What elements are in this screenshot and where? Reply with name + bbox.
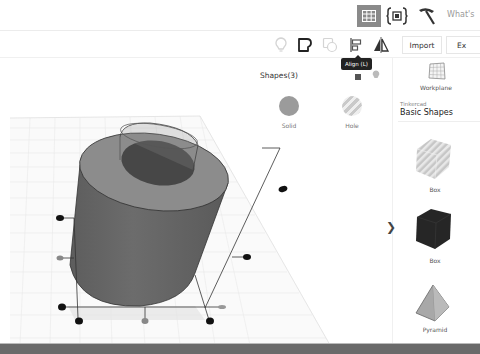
solid-label: Solid [275,122,303,129]
divider [398,121,480,122]
visibility-bulb-icon[interactable] [372,70,380,80]
align-tooltip: Align (L) [341,58,372,70]
mirror-icon [372,37,390,53]
shape-label: Pyramid [400,326,470,333]
box-hole-icon [413,137,455,181]
group-button[interactable] [320,35,340,55]
export-button[interactable]: Ex [446,36,480,54]
top-header: What's [0,0,480,30]
notes-icon [297,37,313,53]
mirror-button[interactable] [371,35,391,55]
tinkercad-editor: What's [0,0,480,354]
grid-icon [362,7,376,26]
library-provider: Tinkercad [400,101,427,107]
3d-view-button[interactable] [357,5,381,27]
align-button[interactable] [346,35,366,55]
codeblocks-button[interactable] [385,4,409,28]
chevron-right-icon[interactable]: ❯ [386,220,396,234]
lightbulb-icon [275,37,287,53]
edit-toolbar: Import Ex [0,30,480,58]
library-category-select[interactable]: Basic Shapes [400,108,453,117]
whats-new-link[interactable]: What's [447,10,474,19]
ungroup-icon [322,37,338,53]
inspector-title: Shapes(3) [260,71,298,80]
shape-label: Box [400,257,470,264]
toggle-light-button[interactable] [271,35,291,55]
pyramid-icon [413,283,455,323]
taskbar [0,344,480,354]
codeblocks-icon [386,6,408,26]
box-solid-icon [413,207,455,251]
lock-icon[interactable] [355,74,361,80]
align-icon [349,37,363,53]
tinker-button[interactable] [416,5,438,27]
shape-label: Box [400,186,470,193]
hole-button[interactable] [342,96,362,116]
workplane-label: Workplane [411,84,461,91]
import-button[interactable]: Import [402,36,442,54]
workplane-icon [428,62,446,80]
shape-inspector-panel: Shapes(3) Solid Hole [250,60,390,140]
solid-color-button[interactable] [279,96,299,116]
hole-label: Hole [338,122,366,129]
notes-button[interactable] [295,35,315,55]
pickaxe-icon [416,5,438,27]
